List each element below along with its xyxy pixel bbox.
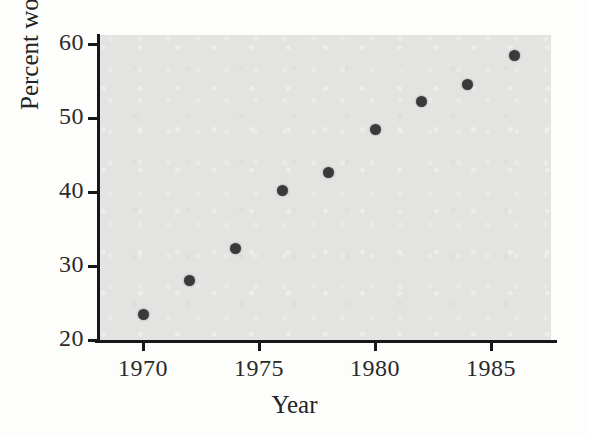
data-point — [509, 50, 520, 61]
y-tick-label-30: 30 — [48, 251, 84, 278]
y-tick-label-50: 50 — [48, 103, 84, 130]
plot-area — [99, 35, 551, 341]
y-axis-line — [97, 34, 100, 343]
x-axis-title: Year — [0, 391, 589, 419]
y-tick-60 — [88, 43, 99, 46]
plot-background-texture — [99, 35, 551, 341]
y-tick-40 — [88, 191, 99, 194]
y-tick-label-60: 60 — [48, 29, 84, 56]
x-tick-label-1975: 1975 — [219, 355, 299, 382]
y-tick-label-20: 20 — [48, 325, 84, 352]
data-point — [323, 167, 334, 178]
y-tick-50 — [88, 117, 99, 120]
data-point — [230, 243, 241, 254]
scatter-chart-figure: 2030405060 1970197519801985 Percent wome… — [0, 0, 589, 434]
x-tick-1975 — [258, 340, 261, 351]
x-tick-1980 — [374, 340, 377, 351]
y-tick-20 — [88, 339, 99, 342]
data-point — [277, 185, 288, 196]
data-point — [138, 309, 149, 320]
y-axis-title: Percent women — [16, 0, 44, 110]
x-tick-label-1980: 1980 — [335, 355, 415, 382]
x-tick-label-1985: 1985 — [451, 355, 531, 382]
data-point — [370, 124, 381, 135]
x-tick-1970 — [142, 340, 145, 351]
y-tick-label-40: 40 — [48, 177, 84, 204]
x-axis-line — [95, 340, 557, 343]
y-tick-30 — [88, 265, 99, 268]
x-tick-label-1970: 1970 — [103, 355, 183, 382]
x-tick-1985 — [490, 340, 493, 351]
